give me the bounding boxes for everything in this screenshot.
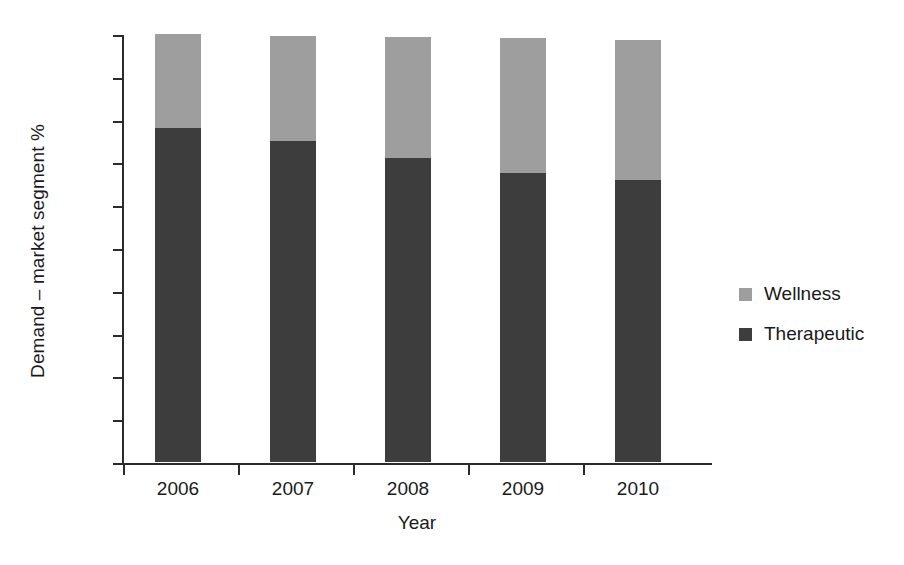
- y-axis-line: [122, 35, 124, 465]
- bar-segment-therapeutic[interactable]: [615, 180, 661, 462]
- y-axis-tick: [113, 206, 122, 208]
- legend-swatch: [739, 288, 752, 301]
- bar-segment-therapeutic[interactable]: [270, 141, 316, 462]
- x-axis-tick-label: 2007: [233, 478, 353, 500]
- bar-segment-wellness[interactable]: [385, 37, 431, 158]
- bar-segment-therapeutic[interactable]: [385, 158, 431, 462]
- bar-segment-wellness[interactable]: [155, 34, 201, 128]
- x-axis-tick-label: 2006: [118, 478, 238, 500]
- bar-segment-therapeutic[interactable]: [155, 128, 201, 462]
- y-axis-tick: [113, 163, 122, 165]
- y-axis-tick: [113, 377, 122, 379]
- bar-segment-wellness[interactable]: [500, 38, 546, 173]
- stacked-bar-chart: Demand – market segment % 100%90%80%70%6…: [0, 0, 904, 565]
- bar-group[interactable]: [500, 38, 546, 462]
- bar-segment-wellness[interactable]: [270, 36, 316, 141]
- y-axis-tick: [113, 249, 122, 251]
- y-axis-tick: [113, 78, 122, 80]
- legend-swatch: [739, 328, 752, 341]
- y-axis-tick: [113, 335, 122, 337]
- y-axis-tick: [113, 292, 122, 294]
- y-axis-tick: [113, 35, 122, 37]
- y-axis-title: Demand – market segment %: [27, 41, 49, 461]
- legend-item[interactable]: Wellness: [739, 274, 864, 314]
- bar-group[interactable]: [615, 40, 661, 462]
- y-axis-tick: [113, 121, 122, 123]
- x-axis-line: [122, 463, 712, 465]
- x-axis-tick: [238, 465, 240, 475]
- x-axis-tick-label: 2009: [463, 478, 583, 500]
- x-axis-tick: [468, 465, 470, 475]
- bar-group[interactable]: [385, 37, 431, 462]
- x-axis-tick-label: 2010: [578, 478, 698, 500]
- plot-area: 100%90%80%70%60%50%40%30%20%10%0%: [122, 35, 712, 464]
- x-axis-tick: [353, 465, 355, 475]
- bar-segment-therapeutic[interactable]: [500, 173, 546, 462]
- chart-legend: WellnessTherapeutic: [739, 274, 864, 354]
- y-axis-tick: [113, 420, 122, 422]
- bar-group[interactable]: [155, 34, 201, 462]
- legend-item[interactable]: Therapeutic: [739, 314, 864, 354]
- legend-label: Therapeutic: [764, 323, 864, 345]
- x-axis-tick: [123, 465, 125, 475]
- legend-label: Wellness: [764, 283, 841, 305]
- y-axis-tick: [113, 463, 122, 465]
- x-axis-tick-label: 2008: [348, 478, 468, 500]
- bar-segment-wellness[interactable]: [615, 40, 661, 180]
- bar-group[interactable]: [270, 36, 316, 462]
- x-axis-title: Year: [122, 512, 712, 534]
- x-axis-tick: [583, 465, 585, 475]
